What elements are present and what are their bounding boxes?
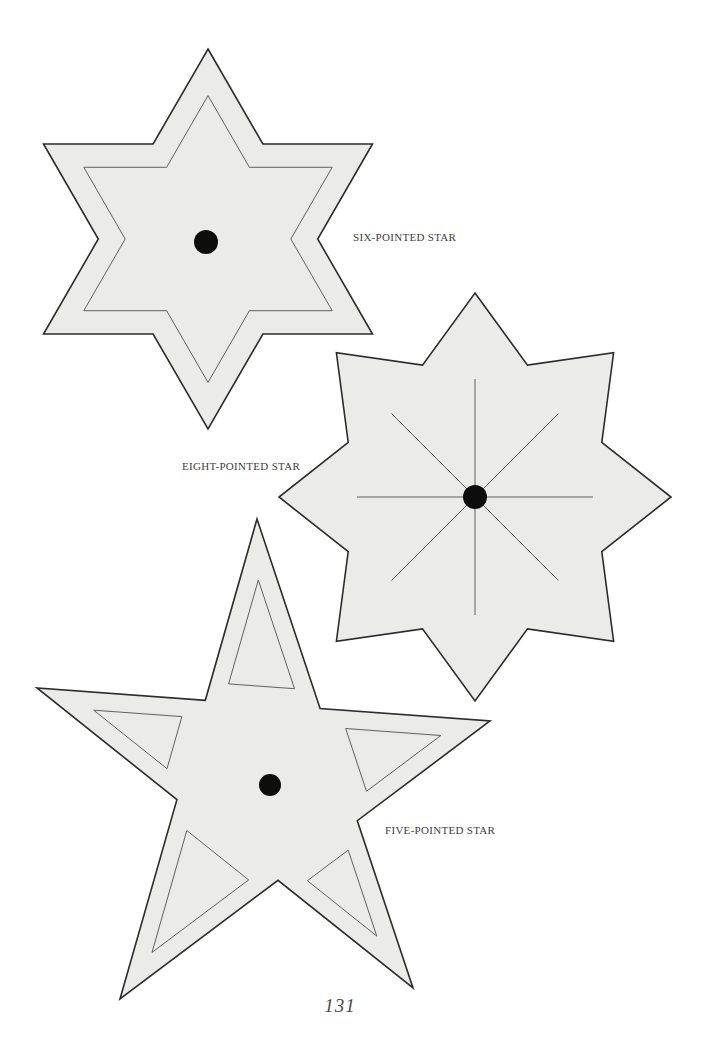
five-pointed-star-caption: FIVE-POINTED STAR bbox=[385, 824, 495, 836]
star-templates-canvas bbox=[0, 0, 716, 1037]
five-pointed-star-center-dot bbox=[259, 774, 281, 796]
eight-pointed-star-caption: EIGHT-POINTED STAR bbox=[182, 460, 300, 472]
book-page: SIX-POINTED STAR EIGHT-POINTED STAR FIVE… bbox=[0, 0, 716, 1037]
six-pointed-star-diagram bbox=[44, 49, 373, 429]
six-pointed-star-center-dot bbox=[194, 230, 218, 254]
page-number: 131 bbox=[312, 995, 368, 1017]
six-pointed-star-caption: SIX-POINTED STAR bbox=[353, 231, 456, 243]
eight-pointed-star-center-dot bbox=[463, 485, 487, 509]
eight-pointed-star-diagram bbox=[279, 293, 671, 701]
